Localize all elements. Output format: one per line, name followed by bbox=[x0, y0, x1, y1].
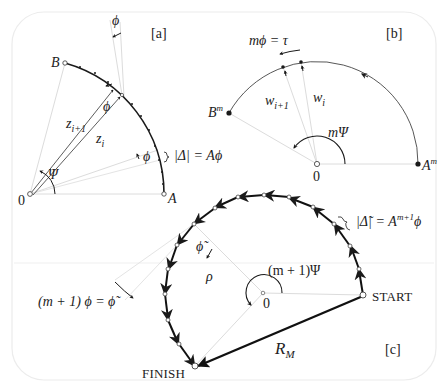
finish-point bbox=[192, 363, 198, 369]
origin-c-label: 0 bbox=[263, 297, 270, 311]
phi-top-label: ϕ bbox=[112, 14, 119, 28]
origin-b-label: 0 bbox=[313, 170, 320, 184]
delta-eq-label: |Δ| = Aϕ bbox=[174, 149, 222, 163]
origin-a-label: 0 bbox=[18, 194, 25, 208]
m-psi-label: mΨ bbox=[328, 126, 348, 140]
point-am bbox=[415, 161, 420, 166]
panel-b-tag: [b] bbox=[386, 27, 402, 41]
origin-a bbox=[28, 192, 33, 197]
panel-b bbox=[226, 50, 420, 167]
delta-brace bbox=[164, 152, 169, 162]
delta-tilde-eq-label: |Δ̃| = Am+1ϕ bbox=[356, 213, 421, 229]
z-next-label: zi+1 bbox=[66, 117, 86, 134]
finish-label: FINISH bbox=[142, 367, 185, 380]
panel-c bbox=[115, 193, 366, 369]
origin-b bbox=[314, 161, 319, 166]
point-bm bbox=[226, 110, 231, 115]
start-point bbox=[360, 292, 366, 298]
point-b-label: B bbox=[51, 56, 60, 70]
origin-c bbox=[261, 291, 265, 295]
point-bm-label: Bm bbox=[208, 104, 223, 120]
psi-label: Ψ bbox=[48, 168, 58, 182]
m-psi-arc bbox=[294, 136, 345, 164]
point-b bbox=[63, 61, 67, 65]
arc-am-to-bm bbox=[229, 62, 418, 164]
m1-psi-label: (m + 1)Ψ bbox=[268, 264, 320, 278]
z-i-label: zi bbox=[96, 132, 104, 149]
phi-arrow-top bbox=[113, 33, 121, 37]
phi-mid-label: ϕ bbox=[103, 100, 110, 114]
w-next-label: wi+1 bbox=[265, 94, 289, 111]
m1-phi-eq-label: (m + 1) ϕ = ϕ̃ bbox=[38, 295, 115, 309]
point-a-label: A bbox=[168, 192, 177, 206]
panel-c-tag: [c] bbox=[385, 343, 401, 357]
start-label: START bbox=[372, 290, 412, 303]
rm-label: RM bbox=[275, 340, 295, 360]
phi-low-label: ϕ bbox=[143, 150, 150, 164]
m-phi-tau-label: mϕ = τ bbox=[249, 34, 288, 48]
point-a bbox=[162, 192, 166, 196]
point-am-label: Am bbox=[422, 157, 437, 173]
w-i-label: wi bbox=[313, 91, 325, 108]
rho-label: ρ bbox=[206, 270, 213, 284]
panel-a-tag: [a] bbox=[151, 27, 167, 41]
phi-tilde-label: ϕ̃ bbox=[196, 240, 203, 254]
diagram-canvas bbox=[0, 0, 448, 389]
delta-tilde-brace bbox=[338, 217, 350, 230]
